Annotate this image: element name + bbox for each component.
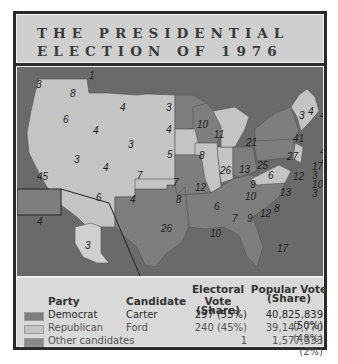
svg-text:6: 6: [268, 170, 274, 181]
hawaii-inset: [17, 189, 61, 215]
svg-text:21: 21: [245, 137, 257, 148]
svg-text:6: 6: [96, 192, 102, 203]
svg-text:7: 7: [232, 213, 238, 224]
svg-text:4: 4: [120, 102, 126, 113]
electoral-democrat: 297 (55%): [179, 309, 247, 320]
svg-text:27: 27: [286, 151, 299, 162]
svg-text:4: 4: [130, 194, 136, 205]
header-candidate: Candidate: [126, 295, 186, 307]
svg-text:13: 13: [239, 164, 251, 175]
svg-text:10: 10: [210, 228, 222, 239]
title-line-1: THE PRESIDENTIAL: [37, 25, 289, 41]
svg-text:8: 8: [70, 88, 76, 99]
svg-text:13: 13: [280, 187, 292, 198]
popular-other: 1,577,333 (2%): [247, 335, 323, 357]
electoral-republican: 240 (45%): [179, 322, 247, 333]
svg-text:7: 7: [173, 177, 179, 188]
title-line-2: ELECTION OF 1976: [37, 43, 283, 59]
election-map: 3 8 1 6 4 4 3 4 3 3 4 7 5 7 45 6 4 8 26 …: [16, 66, 324, 277]
svg-text:4: 4: [103, 162, 109, 173]
svg-text:3: 3: [299, 110, 305, 121]
candidate-ford: Ford: [126, 322, 148, 333]
svg-text:1: 1: [89, 70, 95, 81]
party-republican: Republican: [48, 322, 103, 333]
party-other: Other candidates: [48, 335, 134, 346]
svg-text:3: 3: [85, 240, 91, 251]
svg-text:3: 3: [128, 139, 134, 150]
svg-text:41: 41: [293, 133, 304, 144]
svg-text:45: 45: [37, 171, 49, 182]
svg-text:26: 26: [160, 223, 173, 234]
svg-text:8: 8: [274, 203, 280, 214]
svg-text:3: 3: [74, 154, 80, 165]
electoral-other: 1: [179, 335, 247, 346]
republican-swatch: [24, 325, 44, 334]
header-party: Party: [48, 295, 80, 307]
svg-text:10: 10: [245, 191, 257, 202]
svg-text:4: 4: [308, 106, 314, 117]
svg-text:3: 3: [312, 188, 318, 199]
candidate-carter: Carter: [126, 309, 157, 320]
svg-text:12: 12: [293, 171, 305, 182]
svg-text:5: 5: [167, 149, 173, 160]
party-democrat: Democrat: [48, 309, 97, 320]
other-swatch: [24, 338, 44, 347]
svg-text:7: 7: [137, 170, 143, 181]
svg-text:3: 3: [36, 79, 42, 90]
svg-text:4: 4: [166, 124, 172, 135]
svg-text:8: 8: [199, 150, 205, 161]
svg-text:26: 26: [219, 165, 232, 176]
svg-text:12: 12: [195, 182, 207, 193]
header-popular: Popular Vote (Share): [249, 283, 329, 304]
svg-text:9: 9: [250, 179, 256, 190]
legend-table: Party Candidate Electoral Vote (Share) P…: [16, 277, 324, 347]
svg-text:4: 4: [320, 110, 324, 121]
svg-text:6: 6: [63, 114, 69, 125]
svg-text:8: 8: [176, 194, 182, 205]
svg-text:4: 4: [93, 125, 99, 136]
us-map-svg: 3 8 1 6 4 4 3 4 3 3 4 7 5 7 45 6 4 8 26 …: [17, 67, 324, 277]
svg-text:17: 17: [277, 243, 289, 254]
svg-text:3: 3: [166, 102, 172, 113]
democrat-swatch: [24, 312, 44, 321]
svg-text:11: 11: [214, 129, 224, 140]
svg-text:12: 12: [260, 208, 272, 219]
title-panel: THE PRESIDENTIAL ELECTION OF 1976: [16, 14, 324, 63]
svg-text:10: 10: [197, 119, 209, 130]
svg-text:6: 6: [214, 201, 220, 212]
svg-text:9: 9: [247, 213, 253, 224]
svg-text:4: 4: [37, 216, 43, 227]
svg-text:25: 25: [256, 160, 269, 171]
